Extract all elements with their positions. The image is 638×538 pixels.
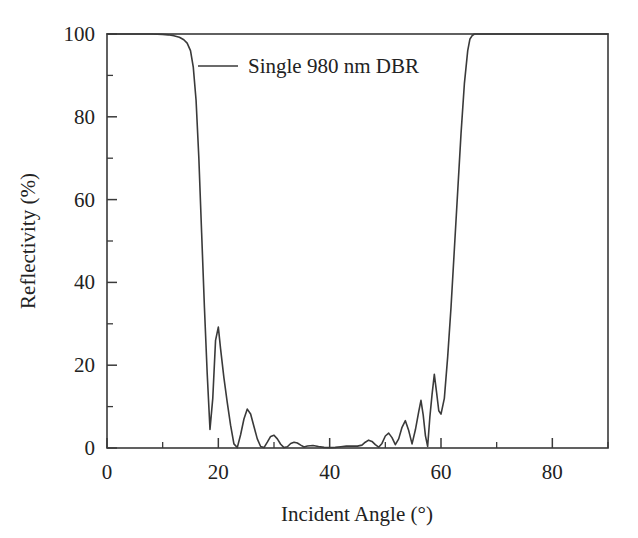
y-axis-title: Reflectivity (%) — [16, 173, 40, 309]
y-tick-label: 60 — [74, 188, 95, 212]
y-tick-label: 40 — [74, 270, 95, 294]
chart-page: 020406080 020406080100 Single 980 nm DBR… — [0, 0, 638, 538]
y-tick-label: 20 — [74, 353, 95, 377]
x-tick-label: 20 — [208, 460, 229, 484]
x-tick-label: 80 — [542, 460, 563, 484]
y-tick-label: 0 — [85, 436, 96, 460]
y-tick-label: 80 — [74, 105, 95, 129]
reflectivity-vs-incident-angle-chart: 020406080 020406080100 Single 980 nm DBR… — [0, 0, 638, 538]
y-tick-label: 100 — [64, 22, 96, 46]
x-tick-label: 60 — [431, 460, 452, 484]
legend-label-single-980-nm-dbr: Single 980 nm DBR — [248, 54, 419, 78]
x-axis-title: Incident Angle (°) — [281, 502, 433, 526]
chart-background — [0, 0, 638, 538]
x-tick-label: 40 — [319, 460, 340, 484]
x-tick-label: 0 — [102, 460, 113, 484]
